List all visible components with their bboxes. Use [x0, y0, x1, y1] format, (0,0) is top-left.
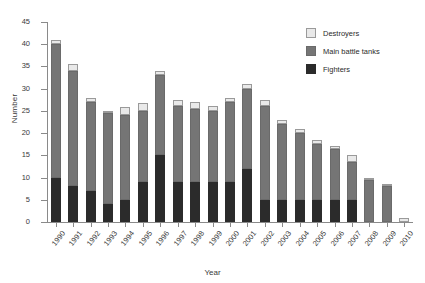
- legend-label-fighters: Fighters: [323, 65, 350, 74]
- y-axis-tick: [41, 155, 47, 156]
- x-axis-tick: [178, 222, 179, 227]
- bar-segment: [242, 89, 252, 169]
- bar-segment: [120, 115, 130, 199]
- bar-segment: [86, 98, 96, 102]
- x-axis-tick: [73, 222, 74, 227]
- legend-item-destroyers: Destroyers: [306, 24, 421, 42]
- bar-2001: [242, 22, 252, 222]
- y-axis-tick-label: 25: [4, 107, 30, 115]
- y-axis-tick-label: 5: [4, 196, 30, 204]
- bar-segment: [68, 186, 78, 222]
- x-axis-tick: [335, 222, 336, 227]
- bar-segment: [155, 75, 165, 155]
- y-axis-tick: [41, 200, 47, 201]
- x-axis-tick: [143, 222, 144, 227]
- bar-segment: [155, 71, 165, 75]
- y-axis-tick-label: 45: [4, 18, 30, 26]
- bar-2004: [295, 22, 305, 222]
- bar-segment: [173, 182, 183, 222]
- bar-segment: [173, 106, 183, 182]
- bar-1995: [138, 22, 148, 222]
- bar-segment: [260, 106, 270, 199]
- bar-segment: [86, 102, 96, 191]
- y-axis-tick-label: 30: [4, 85, 30, 93]
- bar-segment: [260, 200, 270, 222]
- bar-1991: [68, 22, 78, 222]
- bar-segment: [364, 178, 374, 180]
- bar-1990: [51, 22, 61, 222]
- bar-segment: [173, 100, 183, 107]
- bar-segment: [225, 102, 235, 182]
- bar-segment: [208, 106, 218, 110]
- bar-segment: [68, 64, 78, 71]
- bar-segment: [277, 124, 287, 200]
- bar-segment: [120, 107, 130, 115]
- bar-segment: [347, 155, 357, 162]
- x-axis-tick: [108, 222, 109, 227]
- y-axis-tick: [41, 111, 47, 112]
- y-axis-tick: [41, 89, 47, 90]
- bar-1994: [120, 22, 130, 222]
- y-axis-line: [47, 22, 48, 222]
- bar-segment: [330, 146, 340, 148]
- bar-segment: [312, 144, 322, 200]
- bar-segment: [103, 113, 113, 204]
- y-axis-tick-label: 0: [4, 218, 30, 226]
- bar-segment: [138, 111, 148, 182]
- y-axis-tick-label: 15: [4, 151, 30, 159]
- destroyers-swatch-icon: [306, 28, 316, 38]
- bar-segment: [295, 133, 305, 200]
- tanks-swatch-icon: [306, 46, 316, 56]
- bar-segment: [155, 155, 165, 222]
- x-axis-tick: [282, 222, 283, 227]
- x-axis-title: Year: [0, 268, 425, 277]
- bar-segment: [382, 186, 392, 222]
- bar-segment: [295, 129, 305, 133]
- x-axis-tick: [160, 222, 161, 227]
- y-axis-tick: [41, 178, 47, 179]
- y-axis-tick: [41, 66, 47, 67]
- bar-segment: [242, 169, 252, 222]
- bar-segment: [208, 182, 218, 222]
- bar-segment: [277, 200, 287, 222]
- bar-2003: [277, 22, 287, 222]
- y-axis-tick-label: 20: [4, 129, 30, 137]
- bar-segment: [242, 84, 252, 88]
- x-axis-tick: [300, 222, 301, 227]
- bar-segment: [312, 200, 322, 222]
- stacked-bar-chart: Number Year 051015202530354045 199019911…: [0, 0, 425, 283]
- bar-segment: [190, 182, 200, 222]
- bar-1993: [103, 22, 113, 222]
- bar-segment: [86, 191, 96, 222]
- bar-2002: [260, 22, 270, 222]
- bar-segment: [382, 184, 392, 186]
- bar-segment: [399, 218, 409, 222]
- y-axis-tick-label: 10: [4, 174, 30, 182]
- bar-segment: [68, 71, 78, 187]
- bar-segment: [364, 180, 374, 222]
- bar-segment: [138, 182, 148, 222]
- x-axis-tick: [352, 222, 353, 227]
- bar-1997: [173, 22, 183, 222]
- x-axis-tick: [387, 222, 388, 227]
- x-axis-tick: [91, 222, 92, 227]
- bar-1999: [208, 22, 218, 222]
- bar-1996: [155, 22, 165, 222]
- x-axis-tick: [317, 222, 318, 227]
- x-axis-tick: [247, 222, 248, 227]
- bar-segment: [295, 200, 305, 222]
- bar-segment: [190, 102, 200, 109]
- x-axis-tick: [195, 222, 196, 227]
- x-axis-tick: [265, 222, 266, 227]
- bar-segment: [120, 200, 130, 222]
- y-axis-tick-label: 35: [4, 62, 30, 70]
- bar-segment: [347, 200, 357, 222]
- bar-segment: [260, 100, 270, 107]
- legend-item-fighters: Fighters: [306, 60, 421, 78]
- bar-segment: [103, 111, 113, 113]
- bar-segment: [51, 40, 61, 44]
- y-axis-tick: [41, 222, 47, 223]
- y-axis-tick: [41, 44, 47, 45]
- bar-segment: [138, 103, 148, 111]
- bar-1992: [86, 22, 96, 222]
